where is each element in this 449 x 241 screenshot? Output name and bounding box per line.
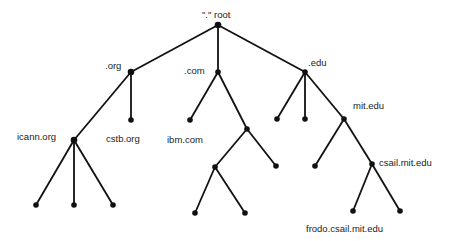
label-mit: mit.edu bbox=[353, 101, 384, 111]
label-cstb: cstb.org bbox=[106, 134, 140, 144]
tree-svg bbox=[0, 0, 449, 241]
edge-edu-edu1 bbox=[277, 72, 305, 119]
node-com2a2 bbox=[242, 210, 248, 216]
node-root bbox=[215, 22, 222, 29]
dns-tree-diagram: "." root.org.com.eduicann.orgcstb.orgibm… bbox=[0, 0, 449, 241]
label-icann: icann.org bbox=[17, 132, 56, 142]
node-com2a bbox=[212, 164, 218, 170]
edge-com2-com2a bbox=[215, 129, 247, 167]
edge-com-ibm bbox=[190, 72, 218, 120]
node-ibm bbox=[187, 117, 193, 123]
node-edu2 bbox=[302, 116, 308, 122]
node-mit bbox=[341, 116, 347, 122]
edge-com2-com2b bbox=[247, 129, 276, 166]
node-icann2 bbox=[71, 202, 77, 208]
label-root: "." root bbox=[202, 10, 230, 20]
edge-com2a-com2a2 bbox=[215, 167, 245, 213]
label-csail: csail.mit.edu bbox=[379, 158, 432, 168]
label-ibm: ibm.com bbox=[167, 135, 203, 145]
label-frodo: frodo.csail.mit.edu bbox=[306, 224, 383, 234]
node-edu bbox=[302, 69, 308, 75]
node-org bbox=[128, 69, 135, 76]
edge-org-icann bbox=[74, 72, 131, 140]
node-icann1 bbox=[33, 202, 39, 208]
edge-root-edu bbox=[218, 25, 305, 72]
edge-csail-csail2 bbox=[372, 164, 400, 211]
label-edu: .edu bbox=[308, 58, 327, 68]
node-com2 bbox=[244, 126, 250, 132]
edge-com-com2 bbox=[218, 72, 247, 129]
node-frodo bbox=[350, 208, 356, 214]
node-icann bbox=[71, 137, 78, 144]
edge-csail-frodo bbox=[353, 164, 372, 211]
edge-edu-mit bbox=[305, 72, 344, 119]
node-csail bbox=[369, 161, 375, 167]
edge-icann-icann3 bbox=[74, 140, 113, 205]
node-edu1 bbox=[274, 116, 280, 122]
edge-com2a-com2a1 bbox=[195, 167, 215, 213]
node-icann3 bbox=[110, 202, 116, 208]
label-com: .com bbox=[184, 66, 205, 76]
node-com2a1 bbox=[192, 210, 198, 216]
edge-mit-mit1 bbox=[315, 119, 344, 166]
node-cstb bbox=[128, 117, 134, 123]
edge-mit-csail bbox=[344, 119, 372, 164]
edge-icann-icann1 bbox=[36, 140, 74, 205]
node-com2b bbox=[273, 163, 279, 169]
node-mit1 bbox=[312, 163, 318, 169]
node-csail2 bbox=[397, 208, 403, 214]
label-org: .org bbox=[105, 61, 121, 71]
node-com bbox=[215, 69, 221, 75]
